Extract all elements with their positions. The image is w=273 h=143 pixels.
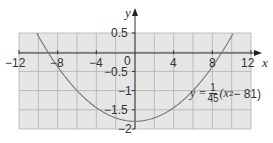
equation-close: − 81) (233, 87, 261, 101)
x-tick-label: 8 (209, 57, 216, 69)
x-tick-label: −4 (89, 57, 103, 69)
equation-open: (x (220, 86, 229, 101)
y-axis-label: y (125, 6, 131, 19)
equation-lhs: y = (190, 86, 206, 101)
y-tick-label: −1.5 (104, 104, 128, 116)
equation-fraction: 1 45 (207, 83, 218, 104)
x-axis-arrow-icon (254, 50, 262, 56)
y-tick-label: −2 (118, 123, 132, 135)
x-tick-label: 4 (170, 57, 177, 69)
x-axis-label: x (262, 56, 268, 69)
x-tick-label: 12 (241, 57, 254, 69)
fraction-denominator: 45 (207, 94, 218, 104)
chart-canvas (0, 0, 273, 143)
y-axis-arrow-icon (132, 8, 138, 16)
x-tick-label: −8 (50, 57, 64, 69)
x-tick-label: −12 (5, 57, 25, 69)
equation-annotation: y = 1 45 (x 2 − 81) (190, 83, 261, 104)
y-tick-label: −1 (118, 85, 132, 97)
y-tick-label: 0.5 (111, 27, 128, 39)
y-tick-label: −0.5 (104, 66, 128, 78)
